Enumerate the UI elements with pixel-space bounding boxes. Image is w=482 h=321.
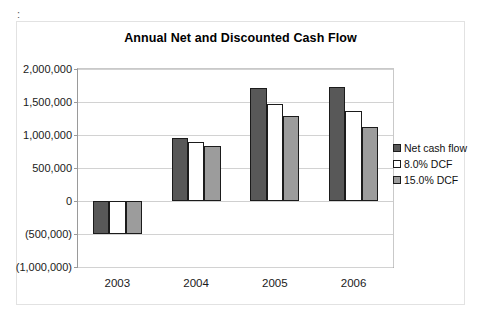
legend-item: Net cash flow [393,141,479,155]
bar [204,146,220,201]
legend-item: 15.0% DCF [393,173,479,187]
bar [345,111,361,201]
y-axis-label: 2,000,000 [23,63,72,75]
y-axis-tick [74,201,78,202]
y-axis-label: 1,500,000 [23,96,72,108]
scan-artifact-top [14,0,134,9]
gridline [78,102,393,103]
x-axis-label: 2003 [105,277,131,289]
bar [250,88,266,201]
gridline [78,234,393,235]
legend-label: Net cash flow [404,142,467,154]
y-axis-label: (500,000) [25,228,72,240]
bar [93,201,109,234]
legend-label: 15.0% DCF [404,174,458,186]
chart-legend: Net cash flow8.0% DCF15.0% DCF [393,141,479,189]
legend-swatch-icon [393,160,401,168]
gridline [78,69,393,70]
bar [362,127,378,201]
x-axis-label: 2006 [341,277,367,289]
bar [283,116,299,201]
bar [188,142,204,201]
y-axis-tick [74,267,78,268]
chart-title: Annual Net and Discounted Cash Flow [17,31,464,45]
y-axis-label: 500,000 [32,162,72,174]
bar [126,201,142,234]
y-axis-label: (1,000,000) [16,261,72,273]
legend-swatch-icon [393,144,401,152]
y-axis-tick [74,168,78,169]
bar [172,138,188,201]
y-axis-tick [74,135,78,136]
bar [267,104,283,201]
y-axis-label: 0 [66,195,72,207]
y-axis-tick [74,102,78,103]
scan-artifact-colon: : [17,9,20,20]
legend-item: 8.0% DCF [393,157,479,171]
plot-area: 2,000,0001,500,0001,000,000500,0000(500,… [77,68,394,268]
y-axis-tick [74,234,78,235]
x-axis-label: 2005 [262,277,288,289]
x-axis-label: 2004 [183,277,209,289]
bar [109,201,125,234]
legend-swatch-icon [393,176,401,184]
chart-container: Annual Net and Discounted Cash Flow 2,00… [16,21,465,305]
y-axis-label: 1,000,000 [23,129,72,141]
legend-label: 8.0% DCF [404,158,452,170]
gridline [78,267,393,268]
y-axis-tick [74,69,78,70]
bar [329,87,345,201]
